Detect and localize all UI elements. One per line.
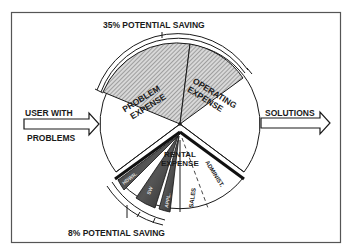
top-saving-label: 35% POTENTIAL SAVING bbox=[103, 20, 205, 30]
input-arrow-label-line1: USER WITH bbox=[25, 108, 73, 118]
bottom-saving-label: 8% POTENTIAL SAVING bbox=[68, 228, 165, 238]
expense-pie-diagram: 35% POTENTIAL SAVING 8% POTENTIAL SAVING… bbox=[0, 0, 346, 250]
pie-center-dot bbox=[178, 122, 182, 126]
output-arrow-label: SOLUTIONS bbox=[265, 108, 315, 118]
rental-expense-label-line2: EXPENSE bbox=[161, 159, 199, 168]
input-arrow-label-line2: PROBLEMS bbox=[27, 133, 76, 143]
rental-expense-label-line1: RENTAL bbox=[164, 150, 196, 159]
